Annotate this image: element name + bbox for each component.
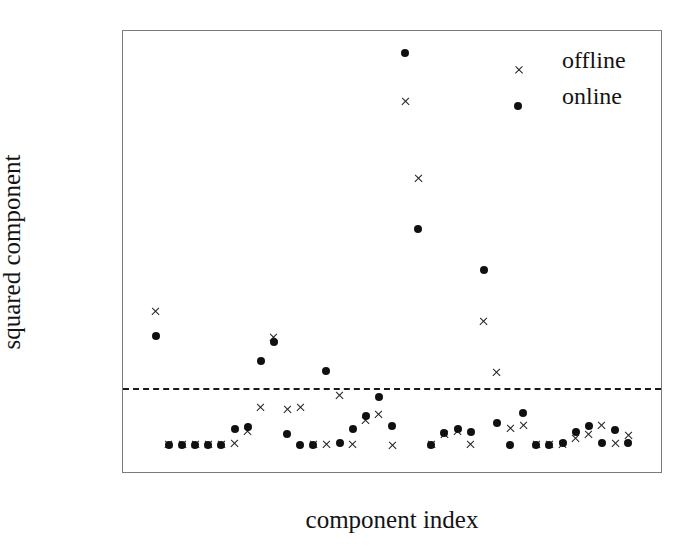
x-tick-mark <box>274 472 275 473</box>
data-point-offline <box>571 434 580 443</box>
data-point-offline <box>492 368 501 377</box>
data-point-online <box>427 441 435 449</box>
data-point-offline <box>519 421 528 430</box>
data-point-online <box>454 425 462 433</box>
data-point-online <box>217 441 225 449</box>
data-point-offline <box>296 403 305 412</box>
data-point-offline <box>479 317 488 326</box>
x-tick-mark <box>536 472 537 473</box>
data-point-online <box>624 439 632 447</box>
data-point-online <box>296 441 304 449</box>
legend-label-offline: offline <box>562 47 626 74</box>
x-tick-mark <box>405 472 406 473</box>
data-point-online <box>585 422 593 430</box>
data-point-online <box>493 419 501 427</box>
data-point-online <box>467 428 475 436</box>
legend-label-online: online <box>562 83 622 110</box>
data-point-offline <box>506 424 515 433</box>
y-axis-label: squared component <box>0 154 26 349</box>
data-point-online <box>336 439 344 447</box>
data-point-offline <box>335 391 344 400</box>
data-point-online <box>559 439 567 447</box>
offline-marker-icon <box>514 60 523 78</box>
data-point-online <box>414 225 422 233</box>
data-point-online <box>611 426 619 434</box>
data-point-online <box>598 439 606 447</box>
online-marker-icon <box>514 96 522 114</box>
data-point-offline <box>374 410 383 419</box>
data-point-online <box>545 441 553 449</box>
data-point-offline <box>388 441 397 450</box>
data-point-online <box>519 409 527 417</box>
data-point-online <box>322 367 330 375</box>
data-point-online <box>362 412 370 420</box>
data-point-online <box>257 357 265 365</box>
x-tick-mark <box>143 472 144 473</box>
data-point-online <box>572 428 580 436</box>
legend: offline online <box>500 42 660 114</box>
data-point-online <box>440 429 448 437</box>
data-point-offline <box>151 307 160 316</box>
data-point-offline <box>283 405 292 414</box>
data-point-offline <box>597 421 606 430</box>
legend-item-offline: offline <box>500 42 660 78</box>
data-point-offline <box>256 403 265 412</box>
data-point-offline <box>611 439 620 448</box>
legend-item-online: online <box>500 78 660 114</box>
data-point-online <box>283 430 291 438</box>
data-point-online <box>349 425 357 433</box>
data-point-online <box>231 425 239 433</box>
data-point-offline <box>414 174 423 183</box>
data-point-offline <box>230 439 239 448</box>
data-point-online <box>375 393 383 401</box>
data-point-offline <box>322 440 331 449</box>
data-point-offline <box>584 430 593 439</box>
data-point-online <box>204 441 212 449</box>
data-point-online <box>506 441 514 449</box>
data-point-online <box>480 266 488 274</box>
data-point-online <box>401 49 409 57</box>
x-axis-label: component index <box>306 506 479 534</box>
data-point-online <box>244 423 252 431</box>
data-point-online <box>270 338 278 346</box>
data-point-online <box>191 441 199 449</box>
data-point-online <box>178 441 186 449</box>
data-point-offline <box>348 440 357 449</box>
data-point-online <box>152 332 160 340</box>
data-point-online <box>165 441 173 449</box>
data-point-online <box>388 422 396 430</box>
scatter-chart-figure: squared component component index 0.000.… <box>0 0 686 551</box>
data-point-offline <box>401 97 410 106</box>
data-point-online <box>532 441 540 449</box>
data-point-online <box>309 441 317 449</box>
data-point-offline <box>466 440 475 449</box>
